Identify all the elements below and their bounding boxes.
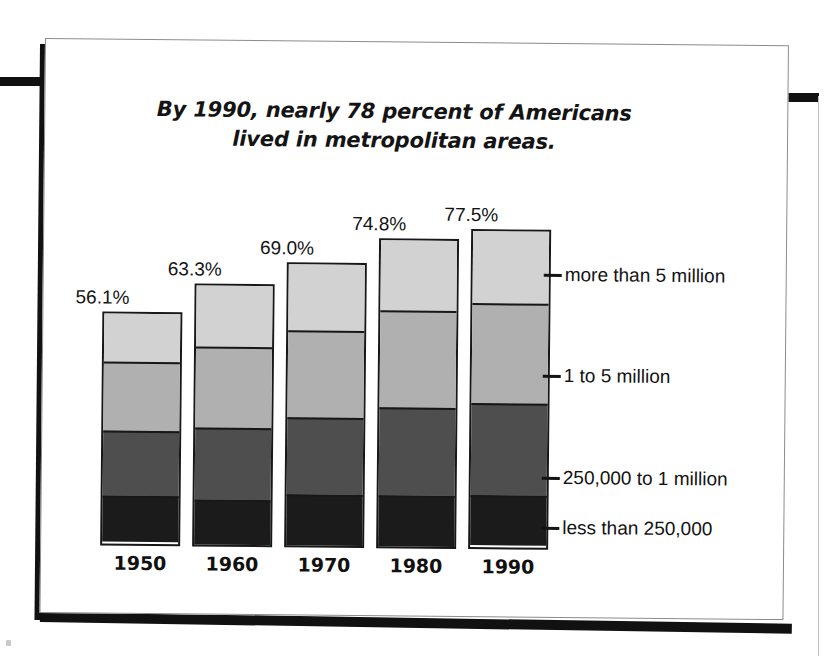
legend-item-less-than-250000[interactable]: less than 250,000	[541, 517, 712, 541]
bar-segment-1-to-5-million	[195, 346, 272, 428]
bar-segment-more-than-5-million	[472, 231, 549, 304]
bar-segment-1-to-5-million	[287, 330, 364, 418]
bar-segment-250k-to-1-million	[379, 407, 456, 496]
legend-item-more-than-5-million[interactable]: more than 5 million	[544, 264, 726, 288]
bar-segment-1-to-5-million	[379, 310, 456, 408]
legend-leader-line-icon	[542, 476, 560, 479]
bar-1980[interactable]	[376, 238, 459, 549]
scanned-page: By 1990, nearly 78 percent of Americans …	[0, 0, 833, 657]
bar-value-1970: 69.0%	[232, 237, 342, 260]
bar-segment-1-to-5-million	[472, 303, 549, 404]
legend-label: 250,000 to 1 million	[563, 467, 728, 491]
bar-value-1960: 63.3%	[140, 258, 250, 281]
bar-1970[interactable]	[284, 262, 367, 548]
bar-segment-less-than-250k	[194, 499, 270, 545]
page-edge-tab-left	[0, 77, 42, 86]
scan-artifact-speck	[6, 640, 11, 646]
chart-title-line-1: By 1990, nearly 78 percent of Americans	[84, 94, 704, 129]
bar-segment-1-to-5-million	[103, 362, 180, 432]
legend-item-1-to-5-million[interactable]: 1 to 5 million	[543, 365, 671, 388]
bar-segment-less-than-250k	[102, 496, 178, 543]
bar-1990[interactable]	[468, 229, 551, 550]
year-label-1990: 1990	[453, 555, 563, 578]
chart-title: By 1990, nearly 78 percent of Americans …	[84, 94, 705, 158]
bar-segment-less-than-250k	[378, 495, 454, 547]
bar-segment-more-than-5-million	[104, 314, 180, 363]
bar-segment-more-than-5-million	[288, 264, 365, 331]
bar-segment-250k-to-1-million	[287, 417, 364, 495]
bar-segment-less-than-250k	[470, 495, 546, 546]
page-guide-rule-right	[818, 96, 819, 656]
bar-segment-250k-to-1-million	[103, 431, 180, 497]
bar-segment-more-than-5-million	[380, 240, 457, 311]
legend-leader-line-icon	[544, 273, 562, 276]
bar-segment-less-than-250k	[286, 494, 362, 546]
bar-value-1990: 77.5%	[416, 204, 526, 227]
bar-segment-more-than-5-million	[196, 285, 273, 347]
legend-label: less than 250,000	[562, 517, 712, 540]
legend-label: more than 5 million	[565, 264, 726, 288]
chart-title-line-2: lived in metropolitan areas.	[84, 123, 704, 158]
bar-segment-250k-to-1-million	[195, 427, 272, 500]
bar-1950[interactable]	[100, 312, 182, 547]
legend-leader-line-icon	[541, 526, 559, 529]
legend-label: 1 to 5 million	[564, 365, 671, 388]
bar-1960[interactable]	[192, 283, 275, 547]
legend-leader-line-icon	[543, 374, 561, 377]
page-edge-tab-right	[787, 93, 819, 102]
bar-value-1950: 56.1%	[47, 286, 157, 309]
stacked-bar-chart: By 1990, nearly 78 percent of Americans …	[39, 38, 786, 618]
bar-segment-250k-to-1-million	[471, 403, 548, 496]
legend-item-250000-to-1-million[interactable]: 250,000 to 1 million	[542, 467, 728, 491]
